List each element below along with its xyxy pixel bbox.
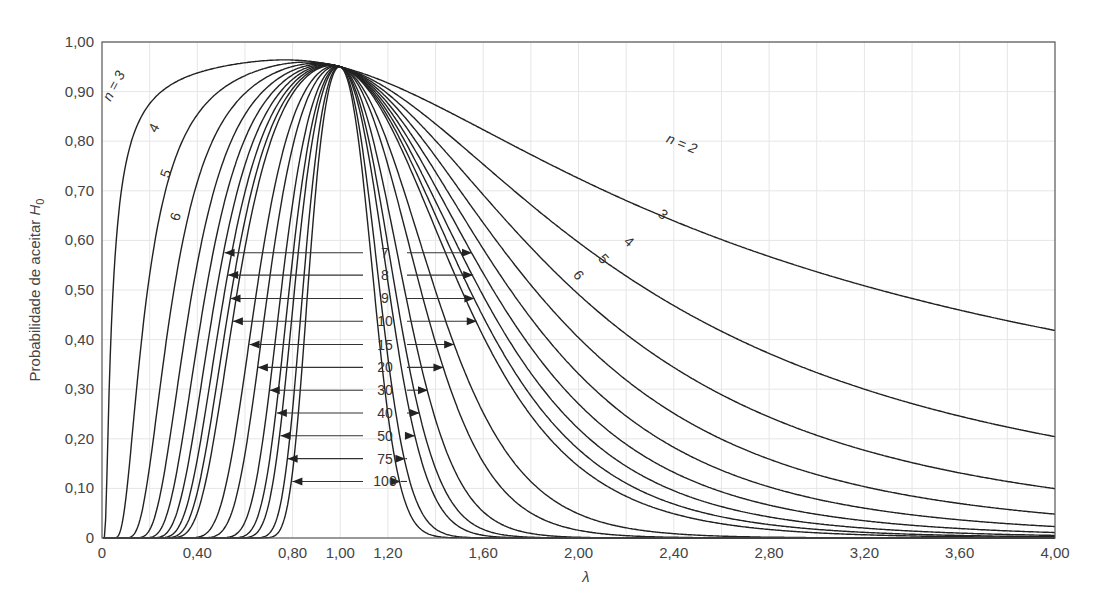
y-tick-label: 0,60 xyxy=(65,231,94,248)
y-axis-label: Probabilidade de aceitar H0 xyxy=(26,199,46,382)
sample-size-label: 30 xyxy=(377,382,393,398)
curve-label: 4 xyxy=(621,233,638,250)
y-tick-label: 0,90 xyxy=(65,83,94,100)
curve-label: 4 xyxy=(145,120,163,135)
y-axis-label-sub: 0 xyxy=(34,199,46,205)
sample-size-label: 75 xyxy=(377,451,393,467)
y-axis-ticks: 00,100,200,300,400,500,600,700,800,901,0… xyxy=(65,33,94,546)
sample-size-label: 7 xyxy=(381,245,389,261)
y-tick-label: 0,30 xyxy=(65,380,94,397)
sample-size-label: 8 xyxy=(381,267,389,283)
y-axis-label-main: Probabilidade de aceitar xyxy=(26,216,43,382)
x-tick-label: 3,20 xyxy=(850,544,879,561)
y-tick-label: 0 xyxy=(86,529,94,546)
x-axis-label: λ xyxy=(581,568,589,585)
sample-size-label: 20 xyxy=(377,359,393,375)
x-axis-ticks: 00,400,801,001,201,602,002,402,803,203,6… xyxy=(98,544,1070,561)
sample-size-label: 40 xyxy=(377,405,393,421)
x-tick-label: 1,60 xyxy=(469,544,498,561)
oc-curve-chart: 78910152030405075100n = 3456n = 23456 00… xyxy=(0,0,1110,612)
arrow-annotations xyxy=(225,249,477,486)
x-tick-label: 1,20 xyxy=(373,544,402,561)
x-tick-label: 0,40 xyxy=(183,544,212,561)
y-tick-label: 0,50 xyxy=(65,281,94,298)
x-tick-label: 4,00 xyxy=(1040,544,1069,561)
y-tick-label: 0,40 xyxy=(65,331,94,348)
grid-lines xyxy=(102,42,1055,538)
y-tick-label: 1,00 xyxy=(65,33,94,50)
x-tick-label: 2,00 xyxy=(564,544,593,561)
y-axis-label-var: H xyxy=(26,205,43,216)
x-tick-label: 1,00 xyxy=(326,544,355,561)
sample-size-label: 10 xyxy=(377,313,393,329)
curve-label: 6 xyxy=(570,267,588,283)
x-tick-label: 3,60 xyxy=(945,544,974,561)
x-tick-label: 0 xyxy=(98,544,106,561)
x-tick-label: 0,80 xyxy=(278,544,307,561)
y-tick-label: 0,10 xyxy=(65,479,94,496)
x-tick-label: 2,80 xyxy=(754,544,783,561)
y-tick-label: 0,80 xyxy=(65,132,94,149)
sample-size-label: 9 xyxy=(381,290,389,306)
y-tick-label: 0,70 xyxy=(65,182,94,199)
sample-size-label: 100 xyxy=(373,473,397,489)
sample-size-label: 15 xyxy=(377,337,393,353)
curve-label: n = 2 xyxy=(664,130,699,157)
curve-label: 3 xyxy=(655,206,671,223)
x-tick-label: 2,40 xyxy=(659,544,688,561)
curve-label: 6 xyxy=(166,210,184,223)
curve-label: n = 3 xyxy=(99,68,128,104)
y-tick-label: 0,20 xyxy=(65,430,94,447)
sample-size-label: 50 xyxy=(377,428,393,444)
